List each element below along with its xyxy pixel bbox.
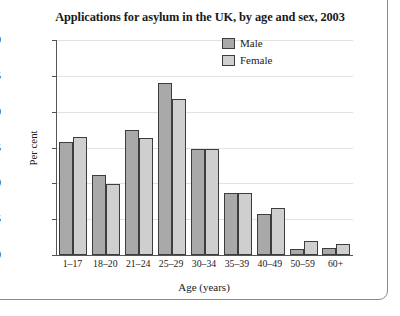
bar-group <box>322 40 350 255</box>
bar-male <box>92 175 106 255</box>
y-tick-label: 5 <box>0 214 1 225</box>
x-tick-label: 30–34 <box>188 258 221 274</box>
x-tick-label: 50–59 <box>286 258 319 274</box>
bar-female <box>205 149 219 255</box>
bar-female <box>304 241 318 255</box>
y-tick-mark <box>52 255 57 256</box>
bar-group <box>257 40 285 255</box>
x-tick-label: 35–39 <box>220 258 253 274</box>
y-tick-label: 15 <box>0 142 1 153</box>
bar-group <box>92 40 120 255</box>
bar-group <box>224 40 252 255</box>
bar-male <box>257 214 271 255</box>
bar-group <box>125 40 153 255</box>
bar-group <box>191 40 219 255</box>
x-tick-label: 1–17 <box>56 258 89 274</box>
y-axis-title: Per cent <box>27 130 39 165</box>
male-swatch <box>222 38 235 49</box>
bar-male <box>125 130 139 255</box>
bar-female <box>271 208 285 255</box>
bar-male <box>191 149 205 255</box>
bar-female <box>106 184 120 255</box>
bar-male <box>224 193 238 255</box>
y-tick-label: 25 <box>0 71 1 82</box>
legend-item: Female <box>222 55 302 66</box>
bar-groups <box>57 40 353 255</box>
chart-legend: MaleFemale <box>222 38 302 72</box>
bar-female <box>73 137 87 255</box>
female-swatch <box>222 55 235 66</box>
x-tick-label: 21–24 <box>122 258 155 274</box>
legend-item: Male <box>222 38 302 49</box>
bar-group <box>290 40 318 255</box>
chart-title: Applications for asylum in the UK, by ag… <box>18 10 382 25</box>
x-axis-tick-labels: 1–1718–2021–2425–2930–3435–3940–4950–596… <box>56 258 352 274</box>
x-tick-label: 40–49 <box>253 258 286 274</box>
bar-female <box>336 244 350 255</box>
x-tick-label: 60+ <box>319 258 352 274</box>
y-tick-label: 10 <box>0 178 1 189</box>
legend-label: Male <box>240 38 263 49</box>
bar-group <box>59 40 87 255</box>
y-tick-label: 30 <box>0 35 1 46</box>
x-tick-label: 25–29 <box>155 258 188 274</box>
legend-label: Female <box>240 55 272 66</box>
bar-female <box>238 193 252 255</box>
bar-female <box>172 99 186 255</box>
bar-male <box>322 248 336 255</box>
x-axis-title: Age (years) <box>56 281 352 293</box>
bar-group <box>158 40 186 255</box>
x-tick-label: 18–20 <box>89 258 122 274</box>
bar-male <box>158 83 172 255</box>
y-tick-label: 0 <box>0 250 1 261</box>
bar-male <box>290 249 304 255</box>
y-tick-label: 20 <box>0 106 1 117</box>
plot-area: Per cent 051015202530 <box>56 40 353 256</box>
chart-figure: Applications for asylum in the UK, by ag… <box>0 0 400 316</box>
bar-male <box>59 142 73 255</box>
bar-female <box>139 138 153 255</box>
